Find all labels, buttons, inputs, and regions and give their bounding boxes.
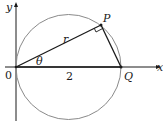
- y-axis-arrow-icon: [14, 2, 18, 7]
- radius-label: r: [63, 34, 68, 45]
- right-angle-marker: [94, 28, 102, 32]
- diameter-length-label: 2: [66, 71, 73, 82]
- point-q-label: Q: [124, 71, 133, 82]
- angle-theta-label: θ: [36, 56, 43, 67]
- point-p-label: P: [103, 13, 110, 24]
- polar-circle-diagram: y x 0 P Q r θ 2: [0, 0, 163, 124]
- y-axis-label: y: [6, 2, 12, 13]
- point-q-dot: [120, 66, 123, 69]
- origin-label: 0: [5, 70, 12, 81]
- segment-pq: [101, 25, 121, 67]
- segment-op: [16, 25, 101, 67]
- origin-dot: [15, 66, 18, 69]
- x-axis-label: x: [157, 62, 163, 73]
- diagram-graphics: [0, 0, 163, 124]
